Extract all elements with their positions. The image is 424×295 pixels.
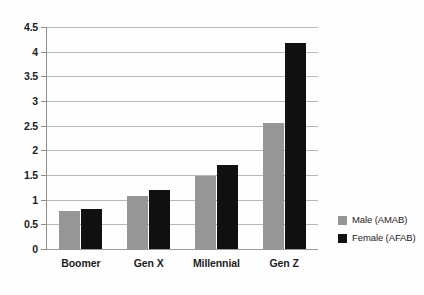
x-axis-tick-label: Millennial (183, 258, 251, 269)
y-axis-tick-mark (41, 150, 47, 151)
y-axis-tick-label: 2 (4, 145, 38, 156)
y-axis-tick-mark (41, 200, 47, 201)
chart-legend: Male (AMAB)Female (AFAB) (338, 212, 416, 248)
legend-label: Female (AFAB) (352, 233, 416, 243)
plot-area (47, 27, 318, 249)
y-axis-labels: 4.543.532.521.510.50 (0, 0, 38, 295)
bar-boomer-female (81, 209, 102, 249)
legend-item-male: Male (AMAB) (338, 212, 416, 228)
bar-gen-x-male (127, 196, 148, 249)
y-axis-tick-mark (41, 76, 47, 77)
y-axis-tick-label: 4 (4, 47, 38, 58)
bar-chart: 4.543.532.521.510.50 BoomerGen XMillenni… (0, 0, 424, 295)
x-axis-tick-label: Gen Z (250, 258, 318, 269)
legend-item-female: Female (AFAB) (338, 230, 416, 246)
bar-gen-z-female (285, 43, 306, 249)
bar-group (47, 27, 115, 249)
y-axis-tick-mark (41, 27, 47, 28)
y-axis-tick-label: 4.5 (4, 22, 38, 33)
legend-label: Male (AMAB) (352, 215, 407, 225)
y-axis-tick-label: 0.5 (4, 219, 38, 230)
x-axis-tick-label: Boomer (47, 258, 115, 269)
y-axis-tick-label: 2.5 (4, 121, 38, 132)
y-axis-tick-mark (41, 224, 47, 225)
bar-group (183, 27, 251, 249)
y-axis-tick-mark (41, 52, 47, 53)
y-axis-tick-label: 3.5 (4, 71, 38, 82)
bar-gen-x-female (149, 190, 170, 249)
legend-swatch-icon (338, 234, 347, 243)
y-axis-tick-label: 0 (4, 244, 38, 255)
legend-swatch-icon (338, 216, 347, 225)
y-axis-tick-label: 3 (4, 96, 38, 107)
y-axis-tick-mark (41, 101, 47, 102)
gridline (47, 249, 318, 250)
bar-gen-z-male (263, 123, 284, 249)
bar-group (115, 27, 183, 249)
y-axis-tick-mark (41, 126, 47, 127)
bar-group (250, 27, 318, 249)
y-axis-tick-label: 1.5 (4, 170, 38, 181)
bar-millennial-male (195, 176, 216, 249)
y-axis-tick-mark (41, 175, 47, 176)
bar-boomer-male (59, 211, 80, 249)
y-axis-tick-label: 1 (4, 195, 38, 206)
x-axis-tick-label: Gen X (115, 258, 183, 269)
bar-millennial-female (217, 165, 238, 249)
y-axis-tick-mark (41, 249, 47, 250)
